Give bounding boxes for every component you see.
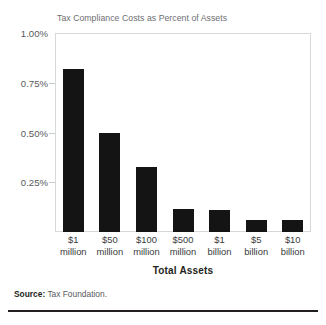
chart-figure: Tax Compliance Costs as Percent of Asset… (0, 0, 326, 325)
bar (173, 209, 194, 232)
x-tick-label-line1: $500 (173, 234, 194, 245)
x-tick-label-line1: $5 (251, 234, 261, 245)
bar (282, 220, 303, 232)
x-tick-label-line1: $10 (285, 234, 301, 245)
x-axis-title: Total Assets (55, 265, 311, 276)
source-label: Source: (14, 289, 45, 299)
bottom-divider (8, 310, 318, 312)
x-tick-label-line1: $100 (136, 234, 157, 245)
bar (209, 210, 230, 232)
bar (246, 220, 267, 232)
x-tick-label-line1: $1 (68, 234, 78, 245)
x-tick-label-line1: $50 (102, 234, 118, 245)
source-text: Tax Foundation. (47, 289, 107, 299)
bar (136, 167, 157, 232)
bar-series: $1million$50million$100million$500millio… (0, 0, 326, 325)
bar (63, 69, 84, 232)
x-tick-label-line2: billion (265, 246, 321, 258)
bar (99, 133, 120, 232)
source-note: Source: Tax Foundation. (14, 289, 107, 299)
x-tick-label-line1: $1 (214, 234, 224, 245)
x-tick-label: $10billion (265, 234, 321, 257)
